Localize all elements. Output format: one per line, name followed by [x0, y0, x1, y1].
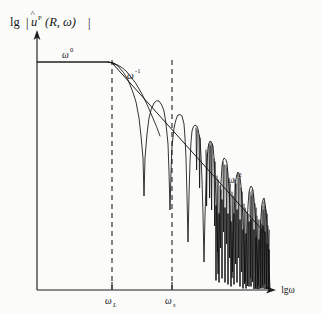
y-label-bar-close: | — [88, 16, 91, 30]
figure-panel: lg | u ^ P (R, ω) | lgω ω L ω s ω 0 ω -1 — [0, 0, 322, 314]
tick-label-omega-L-symbol: ω — [105, 296, 112, 306]
tick-label-omega-L: ω L — [105, 296, 117, 308]
y-axis — [34, 30, 41, 290]
spectrum-plot: lg | u ^ P (R, ω) | lgω ω L ω s ω 0 ω -1 — [0, 0, 322, 314]
annotation-slope-minus-1: ω -1 — [127, 67, 141, 81]
tick-label-omega-L-subscript: L — [112, 301, 117, 308]
tick-label-omega-s-subscript: s — [173, 301, 176, 308]
y-label-bar-open: | — [26, 16, 29, 30]
tick-label-omega-s-symbol: ω — [165, 296, 172, 306]
annotation-slope-0: ω 0 — [62, 46, 74, 60]
annotation-slope-minus-2-exponent: -2 — [236, 171, 242, 178]
annotation-slope-0-exponent: 0 — [70, 46, 74, 53]
tick-label-omega-s: ω s — [165, 296, 176, 308]
dense-spike-cluster — [196, 128, 269, 289]
annotation-slope-minus-2-symbol: ω — [228, 175, 235, 185]
x-axis-ticks — [112, 282, 172, 290]
svg-text:lg: lg — [10, 15, 20, 29]
annotation-slope-0-symbol: ω — [62, 50, 69, 60]
annotation-slope-minus-1-exponent: -1 — [135, 67, 141, 74]
y-label-args: (R, ω) — [45, 15, 76, 29]
y-label-superscript: P — [38, 14, 42, 21]
y-label-lg: lg — [10, 15, 20, 29]
annotation-slope-minus-1-symbol: ω — [127, 71, 134, 81]
y-axis-label: lg | u ^ P (R, ω) | — [10, 9, 91, 30]
x-axis — [37, 287, 276, 294]
x-axis-label: lgω — [281, 285, 295, 295]
mid-band-guide-curve — [108, 62, 160, 136]
